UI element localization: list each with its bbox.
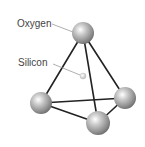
bond-top-right <box>83 33 125 98</box>
silicon-leader-line <box>53 64 80 75</box>
oxygen-atom-bottom <box>86 111 110 135</box>
oxygen-atom-top <box>72 22 94 44</box>
silicon-atom <box>80 73 86 79</box>
silicon-label: Silicon <box>18 57 47 68</box>
bond-left-right <box>41 98 125 103</box>
oxygen-atom-left <box>30 92 52 114</box>
tetrahedron-diagram: Oxygen Silicon <box>0 0 145 147</box>
oxygen-atom-right <box>114 87 136 109</box>
oxygen-leader-line <box>52 24 73 32</box>
oxygen-label: Oxygen <box>17 18 51 29</box>
